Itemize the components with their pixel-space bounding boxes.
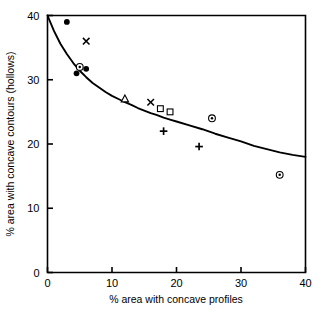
plot-canvas: 010203040 010203040 % area with concave …	[0, 0, 322, 311]
y-axis-title: % area with concave contours (hollows)	[4, 51, 16, 236]
x-tick-label: 10	[106, 277, 118, 289]
data-point-open-square	[167, 109, 173, 115]
y-tick-label: 0	[33, 267, 39, 279]
x-tick-label: 40	[299, 277, 311, 289]
scatter-plot-figure: 010203040 010203040 % area with concave …	[0, 0, 322, 311]
data-point-filled-circle	[74, 70, 80, 76]
y-tick-label: 10	[27, 202, 39, 214]
data-point-circled-dot	[276, 171, 283, 178]
data-point-open-square	[157, 106, 163, 112]
x-tick-label: 30	[235, 277, 247, 289]
x-tick-label: 20	[170, 277, 182, 289]
data-point-circled-dot	[209, 115, 216, 122]
y-tick-label: 20	[27, 138, 39, 150]
data-point-circled-dot	[76, 64, 83, 71]
x-tick-label: 0	[44, 277, 50, 289]
y-tick-label: 30	[27, 74, 39, 86]
data-point-filled-circle	[64, 19, 70, 25]
data-point-filled-circle	[83, 66, 89, 72]
x-axis-title: % area with concave profiles	[109, 293, 243, 305]
y-tick-label: 40	[27, 10, 39, 22]
